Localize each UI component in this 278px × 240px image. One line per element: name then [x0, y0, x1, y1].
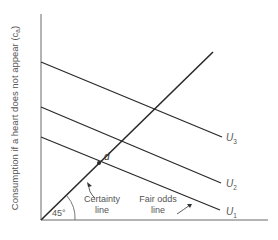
certainty-line-label: Certainty line	[79, 194, 125, 216]
fair-odds-label-2: line	[133, 205, 183, 216]
curve-u2	[41, 107, 221, 183]
y-axis-label-close: )	[9, 26, 20, 29]
y-axis-label: Consumption if a heart does not appear (…	[9, 26, 22, 210]
curve-u1-label: U1	[226, 206, 237, 219]
certainty-arrowhead-icon	[87, 182, 92, 187]
angle-label: 45°	[52, 208, 66, 219]
curve-u1	[41, 137, 220, 210]
certainty-line-label-2: line	[79, 205, 125, 216]
certainty-line-label-1: Certainty	[79, 194, 125, 205]
curve-u3	[41, 62, 222, 137]
fair-odds-label: Fair odds line	[133, 194, 183, 216]
point-d	[97, 161, 101, 165]
angle-arc	[67, 196, 75, 220]
curve-u3-sub: 3	[233, 138, 237, 145]
y-axis-label-sub: a	[14, 29, 21, 33]
curve-u2-label: U2	[226, 178, 237, 191]
certainty-line	[41, 52, 213, 220]
y-axis-label-text: Consumption if a heart does not appear (…	[9, 33, 20, 210]
curve-u2-sub: 2	[233, 184, 237, 191]
fair-odds-arrowhead-icon	[187, 204, 192, 208]
curve-u1-sub: 1	[233, 212, 237, 219]
fair-odds-label-1: Fair odds	[133, 194, 183, 205]
curve-u3-label: U3	[226, 132, 237, 145]
point-d-label: d	[104, 151, 110, 162]
